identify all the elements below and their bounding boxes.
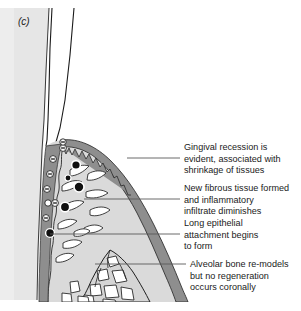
callout-line: evident, associated with: [184, 154, 281, 164]
figure-panel-c: (c) Gingival recession is evident, assoc…: [0, 0, 301, 311]
callout-line: attachment begins: [184, 230, 259, 240]
callout-line: infiltrate diminishes: [184, 206, 262, 216]
callout-line: occurs coronally: [190, 282, 256, 292]
callout-line: but no regeneration: [190, 271, 269, 281]
callout-line: shrinkage of tissues: [184, 165, 265, 175]
callout-line: and inflammatory: [184, 195, 254, 205]
callout-line: Long epithelial: [184, 218, 243, 228]
callout-line: New fibrous tissue formed: [184, 183, 289, 193]
tooth-root-left-fade: [0, 8, 14, 300]
callout-line: to form: [184, 241, 212, 251]
callout-line: Gingival recession is: [184, 142, 268, 152]
callout-line: Alveolar bone re-models: [190, 259, 289, 269]
panel-label: (c): [18, 16, 30, 27]
